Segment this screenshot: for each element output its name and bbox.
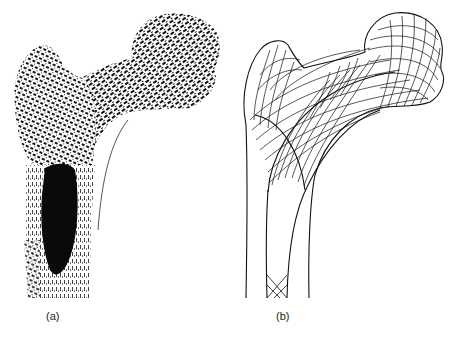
inner-cortex-left <box>266 190 268 298</box>
cortical-edge-line <box>98 120 128 230</box>
base-crosshatch <box>267 275 287 298</box>
arch-line-1 <box>268 72 395 192</box>
trajectorial-lines-drawing <box>230 0 457 337</box>
femoral-head-trabecular-region <box>78 14 220 170</box>
femur-outline <box>244 13 444 298</box>
panel-b-trajectory-drawing: (b) <box>230 0 457 337</box>
femur-section-image <box>0 0 230 337</box>
shaft-cortex-left <box>24 240 40 298</box>
greater-trochanter-trabecular-region <box>14 45 95 175</box>
arch-line-2 <box>255 115 305 190</box>
panel-label-a: (a) <box>46 310 59 322</box>
panel-label-b: (b) <box>276 310 289 322</box>
panel-a-femur-photograph: (a) <box>0 0 230 337</box>
trajectory-grid <box>250 26 440 182</box>
